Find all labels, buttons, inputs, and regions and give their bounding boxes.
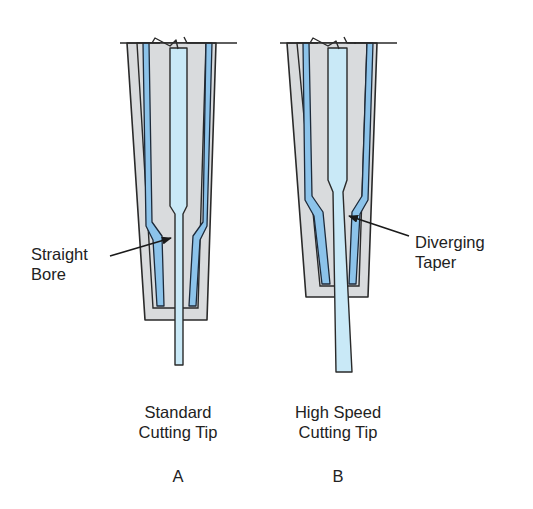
callout-b-line2: Taper (415, 252, 485, 272)
callout-b-line1: Diverging (415, 232, 485, 252)
letter-b: B (332, 466, 343, 486)
caption-tip-b: High Speed Cutting Tip (295, 402, 381, 442)
caption-a-line2: Cutting Tip (139, 422, 218, 442)
standard-cutting-tip (120, 37, 237, 365)
callout-a-line1: Straight (31, 244, 88, 264)
caption-b-line1: High Speed (295, 402, 381, 422)
letter-a: A (172, 466, 183, 486)
caption-a-line1: Standard (139, 402, 218, 422)
caption-b-line2: Cutting Tip (295, 422, 381, 442)
high-speed-cutting-tip (280, 37, 397, 372)
callout-diverging-taper: Diverging Taper (415, 232, 485, 272)
callout-a-line2: Bore (31, 264, 88, 284)
caption-tip-a: Standard Cutting Tip (139, 402, 218, 442)
callout-straight-bore: Straight Bore (31, 244, 88, 284)
